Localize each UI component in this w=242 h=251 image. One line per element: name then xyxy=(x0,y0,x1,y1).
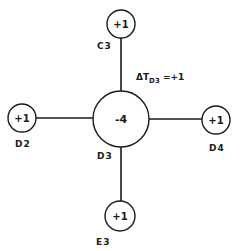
node-center-d3: -4 xyxy=(93,91,149,147)
node-value: -4 xyxy=(115,113,128,126)
node-right-d4: +1 xyxy=(202,106,230,134)
delta-t-annotation: ΔTD3 =+1 xyxy=(136,72,184,85)
node-value: +1 xyxy=(112,211,127,222)
annotation-prefix: ΔT xyxy=(136,72,150,82)
node-left-d2: +1 xyxy=(8,104,36,132)
finite-difference-stencil-diagram: +1 C3 ΔTD3 =+1 +1 D2 -4 D3 +1 D4 +1 E xyxy=(0,0,242,251)
node-value: +1 xyxy=(208,115,223,126)
node-value: +1 xyxy=(14,113,29,124)
annotation-subscript: D3 xyxy=(149,77,160,85)
node-top-c3: +1 xyxy=(107,10,135,38)
cell-label-e3: E3 xyxy=(96,237,110,247)
node-bottom-e3: +1 xyxy=(105,201,135,231)
node-value: +1 xyxy=(113,19,128,30)
cell-label-d4: D4 xyxy=(209,143,225,153)
cell-label-c3: C3 xyxy=(97,41,112,51)
annotation-suffix: =+1 xyxy=(160,72,184,82)
cell-label-d3: D3 xyxy=(97,151,113,161)
cell-label-d2: D2 xyxy=(15,139,31,149)
